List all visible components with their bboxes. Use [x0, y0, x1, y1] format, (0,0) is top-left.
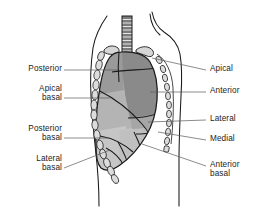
label-anterior: Anterior [210, 86, 266, 95]
label-apical: Apical [210, 64, 266, 73]
label-medial: Medial [210, 134, 266, 143]
label-lateral: Lateral [210, 114, 266, 123]
label-posterior-basal: Posterior basal [8, 124, 62, 143]
label-posterior: Posterior [14, 64, 62, 73]
leader-anterior-basal [142, 144, 206, 166]
leader-lateral [148, 120, 206, 122]
label-apical-basal: Apical basal [14, 84, 62, 103]
figure-canvas: Posterior Apical basal Posterior basal L… [0, 0, 271, 208]
label-lateral-basal: Lateral basal [14, 154, 62, 173]
trachea [122, 16, 132, 56]
label-anterior-basal: Anterior basal [210, 160, 268, 179]
